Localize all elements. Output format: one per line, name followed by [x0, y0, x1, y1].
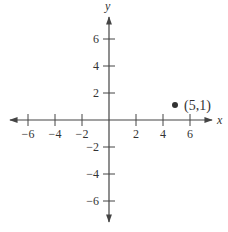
- point-label: (5,1): [184, 98, 211, 114]
- x-tick-label: −4: [49, 127, 62, 141]
- data-points: (5,1): [172, 98, 211, 114]
- x-tick-label: −6: [22, 127, 35, 141]
- y-axis-label: y: [104, 0, 111, 13]
- y-tick-label: 4: [93, 59, 99, 73]
- y-tick-label: −2: [86, 140, 99, 154]
- x-tick-label: 6: [187, 127, 193, 141]
- coordinate-plane: x y −6−4−2246 642−2−4−6 (5,1): [0, 0, 228, 232]
- x-tick-label: 4: [160, 127, 166, 141]
- x-tick-label: 2: [133, 127, 139, 141]
- y-tick-label: 6: [93, 32, 99, 46]
- x-tick-label: −2: [76, 127, 89, 141]
- y-tick-label: −4: [86, 167, 99, 181]
- y-tick-label: 2: [93, 86, 99, 100]
- x-axis-label: x: [216, 113, 223, 127]
- data-point: [172, 102, 178, 108]
- x-axis-ticks: −6−4−2246: [22, 114, 193, 141]
- y-tick-label: −6: [86, 194, 99, 208]
